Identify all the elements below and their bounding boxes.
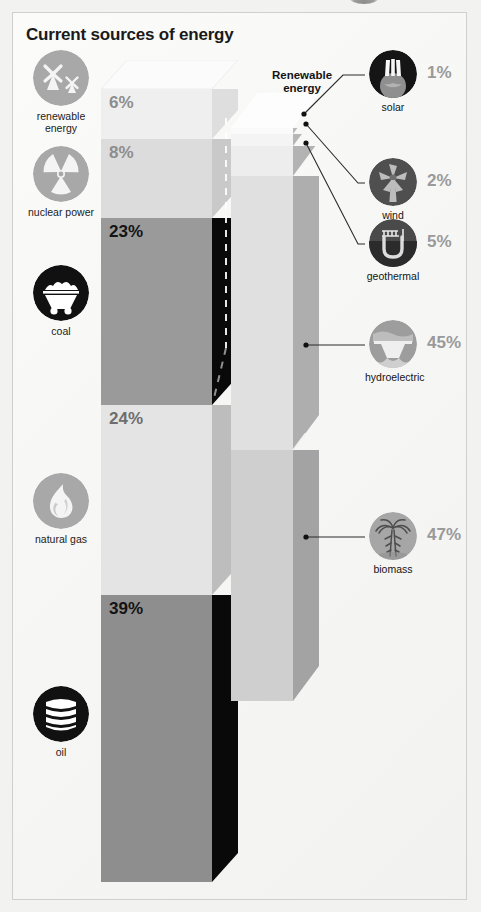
- right-stacked-bar: [231, 93, 293, 703]
- page-title: Current sources of energy: [26, 25, 234, 45]
- callout-value: 45%: [427, 333, 461, 353]
- callout-name: geothermal: [365, 270, 421, 282]
- segment-side-face: [293, 450, 320, 701]
- legend-item-nuclear-power: nuclear power: [23, 146, 99, 218]
- solar-icon: [369, 50, 417, 98]
- callout-name: hydroelectric: [365, 371, 421, 383]
- legend-item-renewable-energy: renewable energy: [23, 50, 99, 134]
- callout-value: 5%: [427, 232, 452, 252]
- left-segment-value: 24%: [109, 409, 143, 429]
- legend-item-coal: coal: [23, 265, 99, 337]
- callout-solar: solar 1%: [365, 50, 421, 113]
- flame-icon: [33, 473, 89, 529]
- left-segment-natural-gas: 24%: [101, 405, 212, 595]
- callout-value: 2%: [427, 171, 452, 191]
- right-segment-wind: [231, 134, 293, 146]
- callout-name: biomass: [365, 563, 421, 575]
- callout-biomass: biomass 47%: [365, 512, 421, 575]
- legend-label: nuclear power: [23, 206, 99, 218]
- legend-label: coal: [23, 325, 99, 337]
- palm-tree-icon: [369, 512, 417, 560]
- callout-geothermal: geothermal 5%: [365, 219, 421, 282]
- left-segment-value: 6%: [109, 93, 134, 113]
- legend-label: oil: [23, 746, 99, 758]
- left-segment-value: 39%: [109, 599, 143, 619]
- callout-value: 1%: [427, 63, 452, 83]
- legend-label: renewable energy: [23, 110, 99, 134]
- left-segment-oil: 39%: [101, 595, 212, 882]
- left-segment-value: 23%: [109, 222, 143, 242]
- right-segment-hydroelectric: [231, 176, 293, 450]
- geothermal-icon: [369, 219, 417, 267]
- left-segment-coal: 23%: [101, 218, 212, 405]
- segment-side-face: [293, 176, 320, 450]
- callout-name: solar: [365, 101, 421, 113]
- hydro-dam-icon: [369, 320, 417, 368]
- oil-barrel-icon: [33, 686, 89, 742]
- left-segment-renewable-energy: 6%: [101, 89, 212, 139]
- right-segment-biomass: [231, 450, 293, 701]
- segment-side-face: [293, 134, 320, 146]
- renewable-energy-callout-label: Renewable energy: [259, 69, 345, 95]
- callout-hydroelectric: hydroelectric 45%: [365, 320, 421, 383]
- segment-side-face: [293, 146, 320, 176]
- renewable-label-line2: energy: [259, 82, 345, 95]
- wind-turbine-icon: [369, 158, 417, 206]
- windmill-icon: [33, 50, 89, 106]
- legend-item-natural-gas: natural gas: [23, 473, 99, 545]
- coal-cart-icon: [33, 265, 89, 321]
- left-segment-nuclear-power: 8%: [101, 139, 212, 218]
- side-divider: [293, 433, 323, 473]
- left-stacked-bar: 6% 8% 23% 24%: [101, 60, 212, 882]
- callout-value: 47%: [427, 525, 461, 545]
- bar-top-face: [231, 93, 321, 133]
- left-segment-value: 8%: [109, 143, 134, 163]
- cropped-top-graphic: [349, 0, 379, 4]
- right-segment-geothermal: [231, 146, 293, 176]
- callout-wind: wind 2%: [365, 158, 421, 221]
- legend-item-oil: oil: [23, 686, 99, 758]
- infographic-panel: Current sources of energy: [12, 12, 467, 900]
- renewable-label-line1: Renewable: [259, 69, 345, 82]
- radiation-icon: [33, 146, 89, 202]
- legend-label: natural gas: [23, 533, 99, 545]
